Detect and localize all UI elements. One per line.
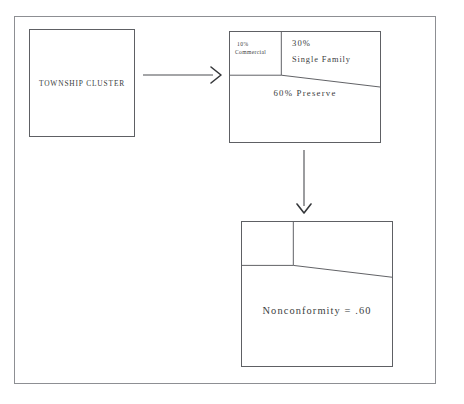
preserve-label: 60% Preserve (230, 88, 380, 98)
single-family-name-label: Single Family (292, 55, 351, 64)
single-family-percent-label: 30% (292, 38, 311, 48)
land-allocation-box: 10% Commercial 30% Single Family 60% Pre… (229, 31, 381, 143)
nonconformity-partition-lines (242, 222, 392, 366)
commercial-percent-label: 10% (237, 41, 249, 47)
diagram-page: TOWNSHIP CLUSTER 10% Commercial 30% Sing… (0, 0, 464, 404)
arrow-right-icon (143, 64, 225, 86)
township-cluster-box: TOWNSHIP CLUSTER (29, 29, 135, 137)
nonconformity-label: Nonconformity = .60 (242, 305, 392, 316)
arrow-down-icon (293, 150, 315, 216)
commercial-name-label: Commercial (235, 49, 266, 55)
township-cluster-label: TOWNSHIP CLUSTER (30, 79, 134, 88)
nonconformity-box: Nonconformity = .60 (241, 221, 393, 367)
